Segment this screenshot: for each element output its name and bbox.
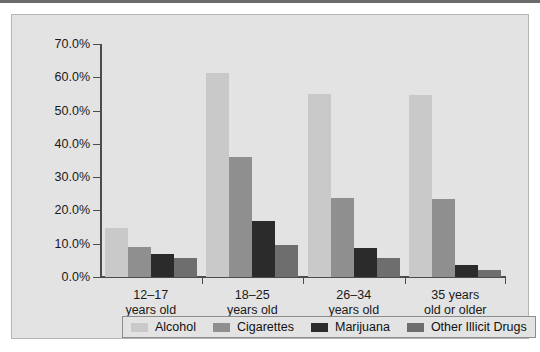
y-axis-tick-label: 20.0% xyxy=(14,204,90,217)
legend-swatch-icon xyxy=(213,323,230,332)
bar xyxy=(354,248,377,277)
bar xyxy=(478,270,501,277)
x-axis-tick xyxy=(405,277,406,284)
top-divider-rule xyxy=(0,0,540,3)
x-axis-tick xyxy=(303,277,304,284)
legend-item: Alcohol xyxy=(131,320,196,334)
y-axis-tick-label: 60.0% xyxy=(14,71,90,84)
chart-legend: AlcoholCigarettesMarijuanaOther Illicit … xyxy=(122,316,536,338)
bar-group xyxy=(105,228,197,277)
bar xyxy=(432,199,455,277)
y-axis-tick-label: 40.0% xyxy=(14,138,90,151)
bar xyxy=(128,247,151,277)
y-axis-tick xyxy=(93,77,100,78)
y-axis-tick xyxy=(93,177,100,178)
legend-label: Other Illicit Drugs xyxy=(431,320,527,334)
legend-item: Marijuana xyxy=(311,320,390,334)
y-axis-tick xyxy=(93,210,100,211)
plot-area xyxy=(100,32,505,277)
bar xyxy=(308,94,331,277)
bar xyxy=(377,258,400,277)
legend-label: Cigarettes xyxy=(237,320,294,334)
x-axis-end-tick xyxy=(505,277,506,284)
bar-group xyxy=(308,94,400,277)
y-axis-tick xyxy=(93,244,100,245)
y-axis-tick xyxy=(93,111,100,112)
x-axis-category-label-line: 35 years xyxy=(395,288,515,303)
chart-figure-frame: 0.0%10.0%20.0%30.0%40.0%50.0%60.0%70.0% … xyxy=(11,14,529,339)
bar xyxy=(206,73,229,277)
y-axis-tick xyxy=(93,44,100,45)
y-axis-labels: 0.0%10.0%20.0%30.0%40.0%50.0%60.0%70.0% xyxy=(12,15,90,340)
legend-label: Marijuana xyxy=(335,320,390,334)
legend-label: Alcohol xyxy=(155,320,196,334)
legend-swatch-icon xyxy=(131,323,148,332)
bar xyxy=(229,157,252,277)
bar xyxy=(455,265,478,277)
y-axis-tick xyxy=(93,144,100,145)
y-axis-tick-label: 0.0% xyxy=(14,271,90,284)
y-axis-tick-label: 30.0% xyxy=(14,171,90,184)
legend-item: Other Illicit Drugs xyxy=(407,320,527,334)
bar xyxy=(331,198,354,277)
bar xyxy=(105,228,128,277)
bar xyxy=(151,254,174,277)
y-axis-tick-label: 70.0% xyxy=(14,38,90,51)
x-axis-tick xyxy=(202,277,203,284)
bar xyxy=(275,245,298,277)
bar xyxy=(252,221,275,277)
legend-item: Cigarettes xyxy=(213,320,294,334)
bar-group xyxy=(409,95,501,277)
y-axis-tick-label: 50.0% xyxy=(14,105,90,118)
y-axis-tick xyxy=(93,277,100,278)
legend-swatch-icon xyxy=(311,323,328,332)
bar xyxy=(174,258,197,277)
bar-group xyxy=(206,73,298,277)
y-axis-tick-label: 10.0% xyxy=(14,238,90,251)
legend-swatch-icon xyxy=(407,323,424,332)
bar xyxy=(409,95,432,277)
x-axis-category-label: 35 yearsold or older xyxy=(395,288,515,319)
